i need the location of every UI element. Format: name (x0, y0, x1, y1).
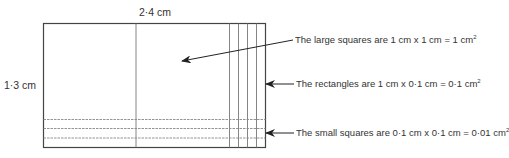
superscript: 2 (473, 34, 476, 40)
annotation-small-squares-text: The small squares are 0·1 cm x 0·1 cm = … (296, 127, 506, 138)
annotation-rectangles: The rectangles are 1 cm x 0·1 cm = 0·1 c… (296, 78, 481, 89)
superscript: 2 (477, 78, 480, 84)
arrow-large-squares (182, 40, 293, 61)
annotation-large-squares: The large squares are 1 cm x 1 cm = 1 cm… (295, 34, 477, 45)
height-label: 1·3 cm (4, 79, 36, 91)
annotation-small-squares: The small squares are 0·1 cm x 0·1 cm = … (296, 127, 509, 138)
width-label: 2·4 cm (139, 6, 171, 18)
annotation-large-squares-text: The large squares are 1 cm x 1 cm = 1 cm (295, 34, 473, 45)
annotation-rectangles-text: The rectangles are 1 cm x 0·1 cm = 0·1 c… (296, 78, 477, 89)
